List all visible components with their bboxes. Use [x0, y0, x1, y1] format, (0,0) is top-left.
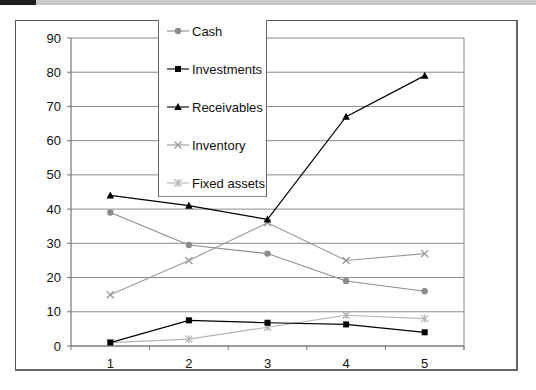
series-receivables — [107, 72, 429, 223]
y-tick-label: 60 — [47, 133, 61, 148]
triangle-marker-icon — [107, 191, 115, 198]
y-tick-label: 80 — [47, 65, 61, 80]
legend-label: Inventory — [192, 138, 245, 153]
circle-marker-icon — [107, 209, 113, 215]
line-chart: 010203040506070809012345 — [0, 0, 536, 390]
circle-marker-icon — [343, 278, 349, 284]
series-fixed-assets — [107, 311, 428, 346]
square-marker-icon — [175, 66, 181, 72]
x-marker-icon — [185, 257, 192, 264]
y-tick-label: 40 — [47, 202, 61, 217]
legend-item-fixed-assets: Fixed assets — [159, 174, 265, 192]
legend-item-investments: Investments — [159, 60, 262, 78]
square-marker-icon — [265, 320, 271, 326]
legend-item-cash: Cash — [159, 22, 222, 40]
x-marker-icon — [107, 291, 114, 298]
x-legend-icon — [167, 138, 189, 152]
circle-marker-icon — [264, 250, 270, 256]
x-tick-label: 3 — [264, 356, 271, 371]
legend-label: Cash — [192, 24, 222, 39]
star-legend-icon — [167, 176, 189, 190]
y-tick-label: 0 — [54, 339, 61, 354]
y-tick-label: 10 — [47, 304, 61, 319]
legend-item-receivables: Receivables — [159, 98, 263, 116]
legend-item-inventory: Inventory — [159, 136, 245, 154]
square-marker-icon — [422, 329, 428, 335]
y-tick-label: 90 — [47, 31, 61, 46]
circle-marker-icon — [186, 242, 192, 248]
square-marker-icon — [343, 321, 349, 327]
square-marker-icon — [107, 340, 113, 346]
x-tick-label: 5 — [421, 356, 428, 371]
square-marker-icon — [186, 317, 192, 323]
x-tick-label: 1 — [107, 356, 114, 371]
circle-legend-icon — [167, 24, 189, 38]
y-tick-label: 70 — [47, 99, 61, 114]
series-investments — [107, 317, 427, 345]
y-tick-label: 20 — [47, 270, 61, 285]
x-tick-label: 2 — [185, 356, 192, 371]
y-tick-label: 50 — [47, 167, 61, 182]
square-legend-icon — [167, 62, 189, 76]
legend-label: Receivables — [192, 100, 263, 115]
x-tick-label: 4 — [342, 356, 349, 371]
chart-legend: CashInvestmentsReceivablesInventoryFixed… — [158, 20, 267, 197]
circle-marker-icon — [175, 28, 181, 34]
circle-marker-icon — [422, 288, 428, 294]
legend-label: Investments — [192, 62, 262, 77]
y-tick-label: 30 — [47, 236, 61, 251]
triangle-marker-icon — [342, 113, 350, 120]
legend-label: Fixed assets — [192, 176, 265, 191]
triangle-legend-icon — [167, 100, 189, 114]
